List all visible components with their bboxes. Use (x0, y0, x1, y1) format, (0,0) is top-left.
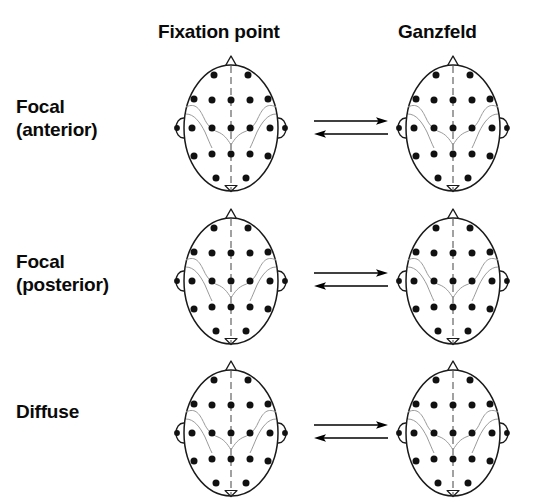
electrode-o1 (435, 175, 442, 182)
electrode-cz (228, 278, 235, 285)
electrode-t5 (191, 306, 198, 313)
head-outline-group (172, 205, 290, 357)
electrode-f4 (247, 402, 254, 409)
electrode-o2 (243, 480, 250, 487)
electrode-a1 (174, 125, 180, 131)
electrode-t4 (267, 430, 274, 437)
electrode-t5 (413, 306, 420, 313)
electrode-t6 (487, 306, 494, 313)
electrode-fp1 (433, 377, 440, 384)
headmap-diffuse-fixation (172, 357, 290, 504)
headmap-diffuse-ganzfeld (394, 357, 512, 504)
row-label-line1: Focal (16, 250, 109, 273)
electrode-t3 (189, 125, 196, 132)
electrode-t6 (265, 153, 272, 160)
electrode-f3 (209, 402, 216, 409)
electrode-cz (450, 125, 457, 132)
electrode-t3 (189, 278, 196, 285)
electrode-pz (450, 304, 457, 311)
electrode-fp2 (467, 377, 474, 384)
electrode-fp1 (211, 225, 218, 232)
electrode-f3 (431, 97, 438, 104)
electrode-pz (228, 151, 235, 158)
electrode-t4 (489, 125, 496, 132)
electrode-f3 (431, 250, 438, 257)
electrode-c4 (469, 278, 476, 285)
head-outline-group (172, 52, 290, 204)
electrode-p4 (247, 304, 254, 311)
electrode-t4 (267, 278, 274, 285)
electrode-fp2 (245, 377, 252, 384)
electrode-fp2 (245, 72, 252, 79)
electrode-fz (228, 402, 235, 409)
electrode-p3 (431, 151, 438, 158)
bidirectional-arrow-icon (312, 417, 390, 447)
electrode-a2 (504, 278, 510, 284)
arrow-pair-focal-posterior (312, 265, 390, 295)
electrode-fp1 (211, 377, 218, 384)
electrode-a2 (282, 278, 288, 284)
electrode-c3 (431, 430, 438, 437)
electrode-t4 (267, 125, 274, 132)
arrow-pair-focal-anterior (312, 113, 390, 143)
electrode-a2 (504, 125, 510, 131)
electrode-t3 (189, 430, 196, 437)
electrode-c4 (469, 430, 476, 437)
electrode-fp1 (433, 72, 440, 79)
electrode-t5 (191, 153, 198, 160)
electrode-c3 (431, 278, 438, 285)
electrode-f8 (487, 96, 494, 103)
electrode-a1 (174, 430, 180, 436)
electrode-f4 (247, 250, 254, 257)
electrode-fz (228, 97, 235, 104)
electrode-o2 (465, 480, 472, 487)
electrode-f8 (487, 249, 494, 256)
electrode-f8 (265, 249, 272, 256)
head-outline-group (394, 357, 512, 504)
electrode-f7 (191, 249, 198, 256)
electrode-cz (450, 278, 457, 285)
electrode-o1 (435, 480, 442, 487)
electrode-f8 (265, 96, 272, 103)
electrode-cz (228, 430, 235, 437)
electrode-c3 (209, 278, 216, 285)
electrode-a2 (282, 430, 288, 436)
electrode-p4 (469, 304, 476, 311)
electrode-fz (450, 402, 457, 409)
electrode-f7 (191, 96, 198, 103)
electrode-p3 (431, 304, 438, 311)
electrode-f7 (413, 96, 420, 103)
electrode-o1 (435, 328, 442, 335)
electrode-t5 (413, 458, 420, 465)
electrode-fz (450, 97, 457, 104)
electrode-t3 (411, 125, 418, 132)
head-outline-group (394, 52, 512, 204)
electrode-o1 (213, 480, 220, 487)
electrode-c3 (209, 125, 216, 132)
bidirectional-arrow-icon (312, 265, 390, 295)
electrode-fp2 (467, 72, 474, 79)
electrode-c4 (247, 278, 254, 285)
electrode-c4 (469, 125, 476, 132)
electrode-a2 (282, 125, 288, 131)
electrode-fz (228, 250, 235, 257)
electrode-fp1 (433, 225, 440, 232)
electrode-o2 (243, 328, 250, 335)
electrode-a1 (174, 278, 180, 284)
electrode-fp2 (467, 225, 474, 232)
electrode-f7 (413, 401, 420, 408)
electrode-t3 (411, 430, 418, 437)
column-header-ganzfeld: Ganzfeld (398, 21, 477, 43)
head-outline-group (172, 357, 290, 504)
electrode-a1 (396, 430, 402, 436)
row-label-line1: Focal (16, 95, 97, 118)
electrode-c3 (209, 430, 216, 437)
electrode-o2 (465, 328, 472, 335)
electrode-pz (450, 151, 457, 158)
headmap-focal-posterior-fixation (172, 205, 290, 357)
headmap-focal-posterior-ganzfeld (394, 205, 512, 357)
electrode-t6 (265, 458, 272, 465)
headmap-focal-anterior-ganzfeld (394, 52, 512, 204)
electrode-p3 (209, 456, 216, 463)
electrode-p4 (469, 456, 476, 463)
